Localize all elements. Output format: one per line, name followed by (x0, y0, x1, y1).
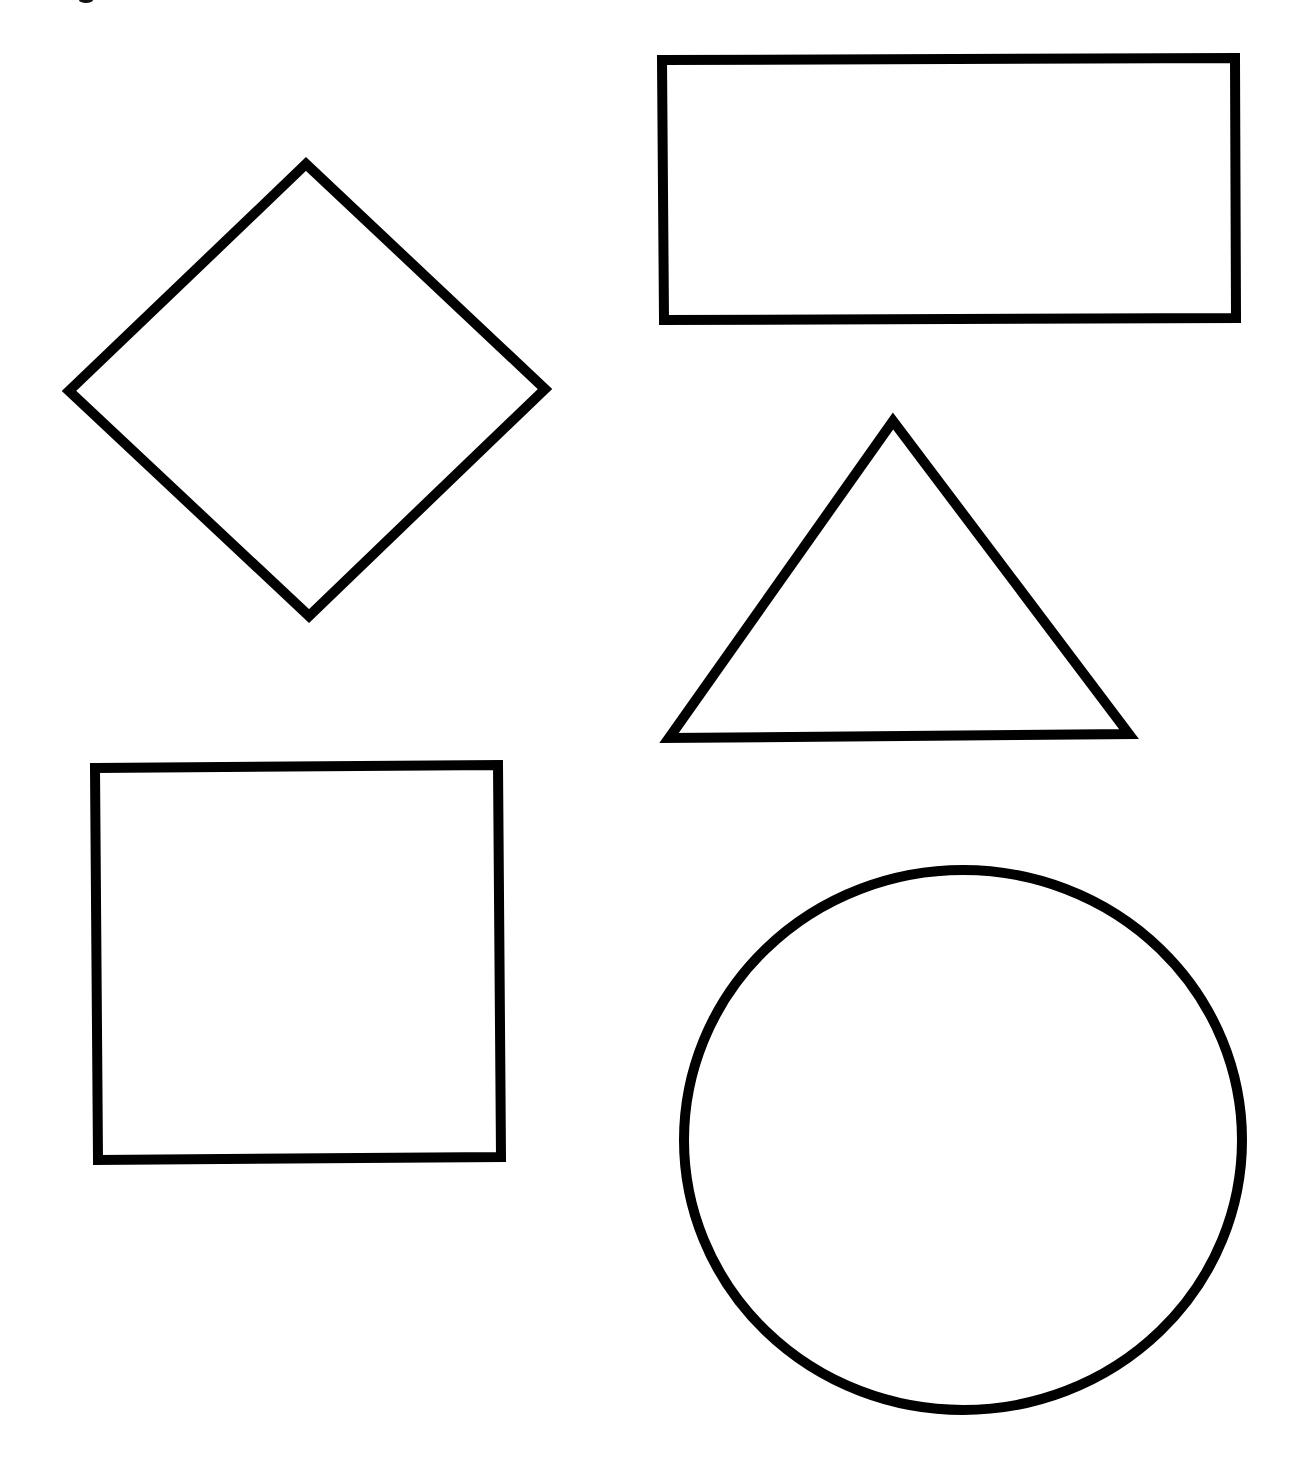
shapes-canvas (0, 0, 1304, 1473)
